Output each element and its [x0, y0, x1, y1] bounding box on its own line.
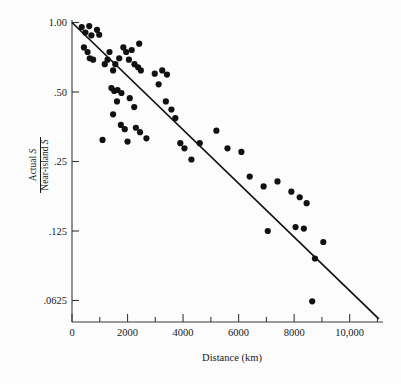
data-point — [114, 98, 120, 104]
data-point — [136, 41, 142, 47]
data-point — [143, 135, 149, 141]
x-axis-title: Distance (km) — [202, 352, 262, 364]
x-tick-label: 0 — [69, 327, 74, 338]
data-point — [118, 90, 124, 96]
data-point — [260, 183, 266, 189]
data-point — [159, 67, 165, 73]
plot-canvas: 1.00.50.25.125.0625 0200040006000800010,… — [0, 0, 401, 384]
data-point — [122, 126, 128, 132]
data-point — [265, 228, 271, 234]
data-point — [88, 32, 94, 38]
data-point — [131, 104, 137, 110]
y-tick-label-group: 1.00.50.25.125.0625 — [43, 17, 67, 306]
data-point — [124, 138, 130, 144]
data-point — [152, 71, 158, 77]
x-tick-label: 2000 — [117, 327, 138, 338]
data-point — [112, 61, 118, 67]
data-point — [164, 71, 170, 77]
data-point — [320, 239, 326, 245]
data-point — [168, 106, 174, 112]
data-point — [123, 49, 129, 55]
data-point — [188, 156, 194, 162]
data-point — [79, 24, 85, 30]
regression-line — [72, 23, 379, 319]
data-point — [181, 145, 187, 151]
data-point — [177, 140, 183, 146]
data-point — [138, 67, 144, 73]
data-point — [288, 189, 294, 195]
data-point — [301, 226, 307, 232]
data-point — [172, 115, 178, 121]
x-tick-label-group: 0200040006000800010,000 — [69, 327, 364, 338]
data-point — [84, 49, 90, 55]
data-point — [116, 55, 122, 61]
scatter-chart-figure: 1.00.50.25.125.0625 0200040006000800010,… — [0, 0, 401, 384]
data-point — [86, 23, 92, 29]
data-point — [106, 49, 112, 55]
y-tick-label: .125 — [49, 226, 67, 237]
y-tick-label: .50 — [54, 87, 67, 98]
data-point — [247, 174, 253, 180]
data-point — [292, 224, 298, 230]
data-point — [87, 55, 93, 61]
y-tick-label: .0625 — [43, 295, 67, 306]
data-point — [163, 98, 169, 104]
y-tick-group — [72, 23, 79, 301]
data-point — [104, 57, 110, 63]
data-point — [238, 149, 244, 155]
data-point-group — [79, 23, 327, 304]
data-point — [156, 81, 162, 87]
data-point — [99, 137, 105, 143]
data-point — [309, 298, 315, 304]
data-point — [213, 128, 219, 134]
data-point — [126, 57, 132, 63]
data-point — [274, 178, 280, 184]
y-tick-label: .25 — [54, 156, 67, 167]
data-point — [129, 47, 135, 53]
x-tick-label: 8000 — [284, 327, 305, 338]
y-tick-label: 1.00 — [49, 17, 67, 28]
data-point — [110, 67, 116, 73]
data-point — [312, 255, 318, 261]
x-tick-label: 6000 — [228, 327, 249, 338]
data-point — [82, 29, 88, 35]
data-point — [137, 129, 143, 135]
data-point — [224, 145, 230, 151]
data-point — [96, 32, 102, 38]
data-point — [197, 140, 203, 146]
x-tick-label: 4000 — [173, 327, 194, 338]
data-point — [304, 200, 310, 206]
data-point — [297, 194, 303, 200]
data-point — [127, 95, 133, 101]
x-tick-label: 10,000 — [335, 327, 364, 338]
data-point — [110, 111, 116, 117]
